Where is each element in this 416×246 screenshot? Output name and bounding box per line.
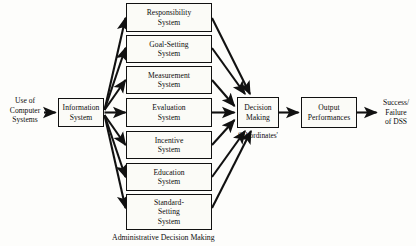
output-performances-box: Output Performances xyxy=(301,97,357,128)
responsibility-system-box: Responsibility System xyxy=(126,3,212,32)
standard-setting-system-line1: Standard- xyxy=(154,198,184,207)
output-performances-line1: Output xyxy=(318,103,339,112)
measurement-system-box: Measurement System xyxy=(126,66,212,94)
decision-making-line2: Making xyxy=(246,113,270,122)
goal-setting-system-line2: System xyxy=(158,49,181,58)
diagram-caption: Administrative Decision Making xyxy=(112,233,215,242)
goal-setting-system-line1: Goal-Setting xyxy=(149,40,188,49)
education-system-line2: System xyxy=(158,177,181,186)
education-system-line1: Education xyxy=(153,168,184,177)
arrow-measurement-to-decision xyxy=(212,80,235,106)
information-system-box: Information System xyxy=(58,98,104,127)
subordinates-label: Subordinates' xyxy=(238,131,278,140)
outcome-label-line3: of DSS xyxy=(378,117,414,127)
responsibility-system-line1: Responsibility xyxy=(147,8,192,17)
standard-setting-system-line3: System xyxy=(158,217,181,226)
incentive-system-line1: Incentive xyxy=(155,136,184,145)
decision-making-box: Decision Making xyxy=(237,97,279,128)
responsibility-system-line2: System xyxy=(158,18,181,27)
input-label: Use of Computer Systems xyxy=(4,96,46,125)
outcome-label-line2: Failure xyxy=(378,108,414,118)
input-label-line1: Use of xyxy=(4,96,46,106)
arrow-incentive-to-decision xyxy=(212,120,235,145)
outcome-label: Success/ Failure of DSS xyxy=(378,98,414,127)
measurement-system-line2: System xyxy=(158,80,181,89)
outcome-label-line1: Success/ xyxy=(378,98,414,108)
decision-making-line1: Decision xyxy=(244,103,271,112)
evaluation-system-line2: System xyxy=(158,113,181,122)
output-performances-line2: Performances xyxy=(308,113,350,122)
input-label-line3: Systems xyxy=(4,115,46,125)
evaluation-system-line1: Evaluation xyxy=(152,103,185,112)
incentive-system-box: Incentive System xyxy=(126,131,212,159)
measurement-system-line1: Measurement xyxy=(148,71,190,80)
evaluation-system-box: Evaluation System xyxy=(126,98,212,127)
standard-setting-system-box: Standard- Setting System xyxy=(126,194,212,230)
input-label-line2: Computer xyxy=(4,106,46,116)
administrative-decision-making-diagram: Use of Computer Systems Information Syst… xyxy=(0,0,416,246)
arrow-is-to-goal-setting xyxy=(105,48,126,110)
education-system-box: Education System xyxy=(126,163,212,191)
standard-setting-system-line2: Setting xyxy=(158,207,180,216)
information-system-line1: Information xyxy=(63,103,100,112)
goal-setting-system-box: Goal-Setting System xyxy=(126,35,212,63)
information-system-line2: System xyxy=(70,113,93,122)
incentive-system-line2: System xyxy=(158,145,181,154)
